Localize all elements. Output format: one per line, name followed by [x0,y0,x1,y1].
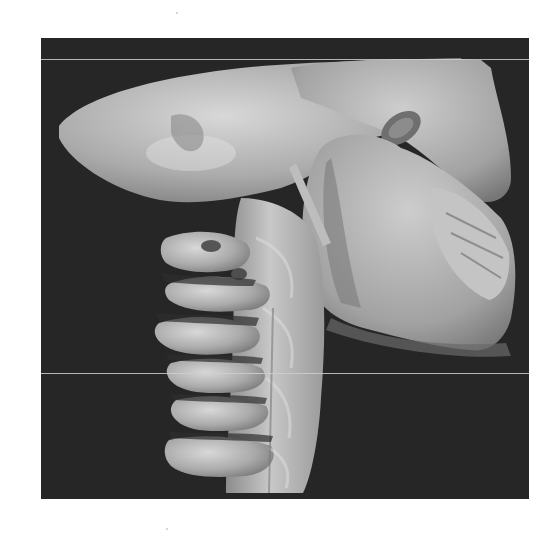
dust-speck-top [176,12,178,14]
scan-line-upper [41,59,529,60]
dust-speck-bottom [166,528,168,530]
skull-spine-render [41,38,529,499]
scan-line-lower [41,373,529,374]
vertebra-c6 [165,436,274,477]
ct-render-frame: 3D CT volume rendering, lateral view of … [41,38,529,499]
